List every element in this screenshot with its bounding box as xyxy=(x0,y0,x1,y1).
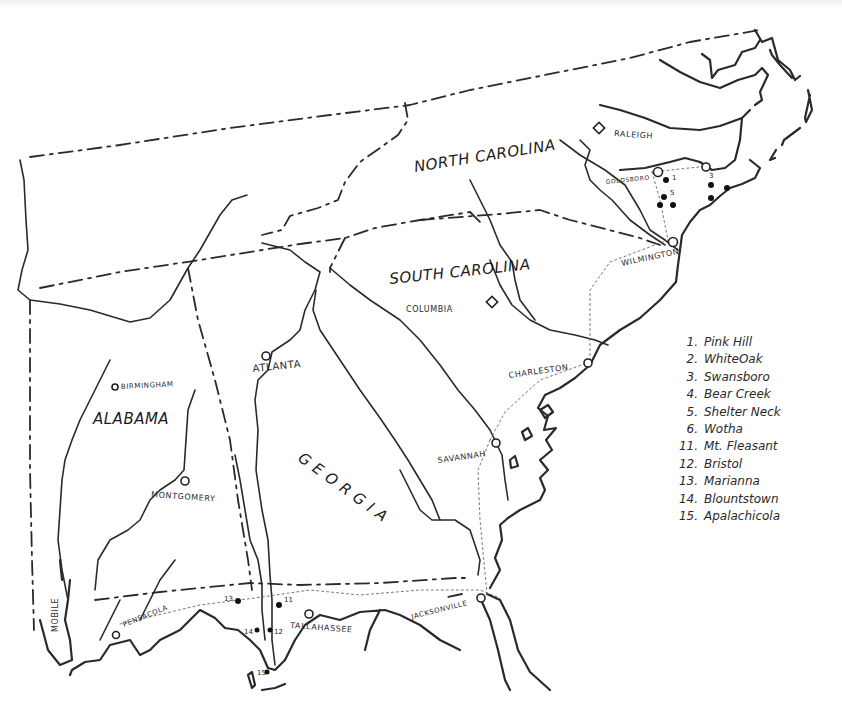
city-pensacola: PENSACOLA xyxy=(113,604,170,639)
legend-label: Wotha xyxy=(704,422,743,436)
legend-item: 2.WhiteOak xyxy=(676,351,781,368)
alabama-river xyxy=(58,360,110,600)
legend-item: 4.Bear Creek xyxy=(676,386,781,403)
svg-text:14: 14 xyxy=(244,628,253,636)
tennessee-river xyxy=(18,160,247,322)
legend-label: Shelter Neck xyxy=(704,405,781,419)
site-13 xyxy=(235,598,241,604)
state-label-north-carolina: NORTH CAROLINA xyxy=(413,136,557,176)
svg-text:TALLAHASSEE: TALLAHASSEE xyxy=(289,621,353,634)
svg-text:WILMINGTON: WILMINGTON xyxy=(621,247,681,268)
legend-item: 13.Marianna xyxy=(676,473,781,490)
al-ms-border xyxy=(30,300,34,630)
site-11 xyxy=(276,602,282,608)
legend-label: Swansboro xyxy=(704,370,770,384)
legend-item: 5.Shelter Neck xyxy=(676,404,781,421)
legend-item: 11.Mt. Fleasant xyxy=(676,438,781,455)
site-legend: 1.Pink Hill 2.WhiteOak 3.Swansboro 4.Bea… xyxy=(676,334,781,525)
legend-label: WhiteOak xyxy=(704,352,763,366)
svg-text:15: 15 xyxy=(257,669,266,677)
site-5 xyxy=(670,202,676,208)
legend-label: Apalachicola xyxy=(704,509,780,523)
legend-item: 12.Bristol xyxy=(676,456,781,473)
state-label-south-carolina: SOUTH CAROLINA xyxy=(389,255,532,288)
svg-text:ATLANTA: ATLANTA xyxy=(252,358,302,374)
nc-sounds xyxy=(660,40,768,105)
legend-label: Blountstown xyxy=(704,492,779,506)
legend-label: Bear Creek xyxy=(704,387,771,401)
state-label-georgia: GEORGIA xyxy=(295,449,396,529)
flint-river xyxy=(235,455,265,640)
city-montgomery: MONTGOMERY xyxy=(151,477,216,503)
nc-river-2 xyxy=(470,180,535,320)
svg-text:PENSACOLA: PENSACOLA xyxy=(122,604,169,629)
site-markers: 1 5 3 13 11 14 12 15 xyxy=(224,172,730,677)
city-atlanta: ATLANTA xyxy=(252,352,302,374)
legend-item: 15.Apalachicola xyxy=(676,508,781,525)
state-labels: NORTH CAROLINA SOUTH CAROLINA ALABAMA GE… xyxy=(92,136,557,529)
legend-label: Mt. Fleasant xyxy=(704,439,778,453)
svg-text:MOBILE: MOBILE xyxy=(51,598,60,632)
city-newbern xyxy=(702,163,710,171)
al-ga-border xyxy=(188,268,252,590)
site-4b xyxy=(708,195,714,201)
nc-southern-coast xyxy=(676,160,760,282)
svg-text:11: 11 xyxy=(284,596,293,604)
city-tallahassee: TALLAHASSEE xyxy=(289,610,353,634)
ga-river xyxy=(400,470,480,575)
legend-item: 14.Blountstown xyxy=(676,491,781,508)
city-savannah: SAVANNAH xyxy=(437,439,500,465)
svg-text:3: 3 xyxy=(709,172,713,180)
neuse-river xyxy=(580,140,665,245)
site-1 xyxy=(663,177,669,183)
legend-item: 1.Pink Hill xyxy=(676,334,781,351)
site-4 xyxy=(657,202,663,208)
sc-ga-coast xyxy=(490,282,676,588)
city-columbia: COLUMBIA xyxy=(406,296,498,314)
svg-text:JACKSONVILLE: JACKSONVILLE xyxy=(410,599,469,621)
city-charleston: CHARLESTON xyxy=(508,359,592,380)
site-6 xyxy=(724,185,730,191)
city-birmingham: BIRMINGHAM xyxy=(112,380,174,391)
svg-text:RALEIGH: RALEIGH xyxy=(614,129,654,141)
svg-text:CHARLESTON: CHARLESTON xyxy=(508,363,569,380)
rivers xyxy=(18,140,678,665)
city-raleigh: RALEIGH xyxy=(593,122,653,140)
svg-text:COLUMBIA: COLUMBIA xyxy=(406,305,453,314)
legend-label: Bristol xyxy=(704,457,742,471)
legend-item: 6.Wotha xyxy=(676,421,781,438)
city-mobile: MOBILE xyxy=(51,598,60,632)
legend-label: Pink Hill xyxy=(704,335,752,349)
svg-text:5: 5 xyxy=(670,189,674,197)
nc-coast xyxy=(755,30,812,160)
svg-text:12: 12 xyxy=(274,628,283,636)
svg-text:1: 1 xyxy=(672,174,676,182)
svg-text:MONTGOMERY: MONTGOMERY xyxy=(151,490,216,503)
rail-savannah-jacksonville xyxy=(478,440,490,594)
svg-text:13: 13 xyxy=(224,595,233,603)
svg-text:SAVANNAH: SAVANNAH xyxy=(437,449,487,465)
city-jacksonville: JACKSONVILLE xyxy=(410,594,485,621)
legend-label: Marianna xyxy=(704,474,760,488)
svg-text:BIRMINGHAM: BIRMINGHAM xyxy=(121,380,174,391)
nc-tn-border xyxy=(262,103,408,235)
apalachicola-bay xyxy=(248,672,285,690)
site-2 xyxy=(661,194,667,200)
state-label-alabama: ALABAMA xyxy=(92,410,169,428)
fl-river xyxy=(100,560,175,640)
site-3 xyxy=(708,182,714,188)
fl-east-coast xyxy=(482,594,550,690)
legend-item: 3.Swansboro xyxy=(676,369,781,386)
site-12 xyxy=(268,628,273,633)
city-goldsboro: GOLDSBORO xyxy=(605,168,662,185)
site-14 xyxy=(255,628,260,633)
